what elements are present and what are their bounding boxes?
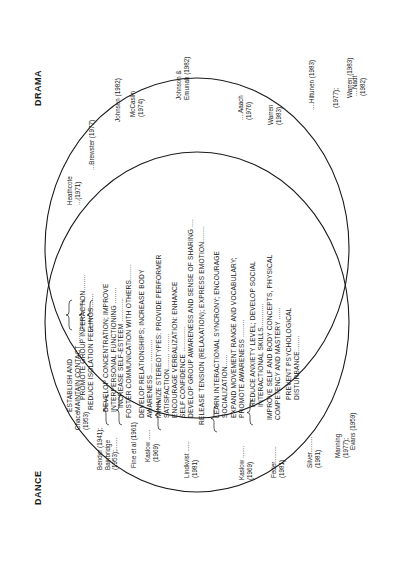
goal-item: DEVELOP CONCENTRATION; IMPROVE	[102, 283, 109, 412]
drama-reference: Warren	[267, 104, 274, 125]
drama-reference: Heathcote	[66, 176, 73, 205]
drama-reference: Emunah (1982)	[183, 57, 191, 100]
dance-reference: Feder.........	[270, 446, 277, 478]
drama-reference: Johnson &	[175, 69, 182, 100]
goal-item: INCREASE SELF-ESTEEM ............	[117, 298, 124, 408]
goal-item: DEVELOP RELATIONSHIPS; INCREASE BODY	[138, 269, 145, 418]
goal-item: PROMOTE GROUP INTERACTION........	[79, 275, 86, 400]
goal-item: RELEASE TENSION (RELAXATION); EXPRESS EM…	[198, 226, 206, 425]
dance-reference: (1981)	[314, 450, 322, 468]
drama-reference: Johnson (1982)	[114, 78, 122, 122]
dance-reference: (1981)	[191, 460, 199, 478]
drama-reference: ...(1971)	[74, 182, 82, 205]
goal-item: REDUCE ISOLATION FEELINGS.......	[87, 294, 94, 410]
dance-reference: (1969)	[246, 462, 254, 480]
goal-item: EXPAND MOVEMENT RANGE AND VOCABULARY;	[230, 257, 237, 418]
drama-reference: ....Hiltunen (1983)	[308, 60, 316, 110]
goal-item: PREVENT PSYCHOLOGICAL	[285, 307, 292, 400]
goal-item: DEVELOP GROUP AWARENESS AND SENSE OF SHA…	[187, 219, 194, 418]
dance-reference: Kaslow ......	[144, 429, 151, 462]
goal-item: INTERPERSONAL FUNCTIONING ........	[110, 287, 117, 412]
dance-references: Chace(1953)Bender (1941);Bainbridge(1953…	[74, 411, 357, 480]
dance-reference: Fine et al (1961)	[130, 422, 138, 468]
goal-item: PROMOTE AWARENESS .........	[238, 319, 245, 418]
dance-reference: (1953)	[82, 412, 90, 430]
drama-reference: (1974)	[137, 99, 145, 117]
goal-item: SOCIALIZATION......	[221, 354, 228, 418]
dance-reference: Kaslow .......	[238, 445, 245, 480]
goal-item: COMPETENCY AND MASTERY ......	[274, 308, 281, 420]
dance-reference: Evans (1959)	[349, 413, 357, 450]
goal-item: AWARENESS ..... ...........	[146, 339, 153, 418]
dance-reference: Silver.........	[306, 437, 313, 468]
venn-diagram: DRAMA DANCE ESTABLISH ANDMAINTAIN CONTAC…	[0, 0, 394, 568]
set-label-dance: DANCE	[33, 470, 43, 505]
grouping-brace	[66, 300, 72, 330]
drama-reference: ....Nadt	[351, 75, 358, 96]
goal-item: SATISFACTION........ .........	[163, 333, 170, 418]
goal-item: SELF CONFIDENCE .............	[179, 326, 186, 418]
drama-reference: (1977);	[332, 88, 340, 108]
goal-item: MINIMIZE STEREOTYPES: PROVIDE PERFORMER	[155, 255, 162, 418]
drama-reference: McCaslin	[129, 91, 136, 117]
drama-reference: ....Aaach	[237, 95, 244, 120]
goal-item: IMPROVE SELF AND BODY CONCEPTS, PHYSICAL	[266, 255, 273, 420]
goal-item: ENCOURAGE VERBALIZATION: ENHANCE	[171, 281, 178, 418]
goal-item: DISTURBANCE........	[293, 335, 300, 400]
goal-item: ESTABLISH AND	[66, 359, 73, 412]
set-label-drama: DRAMA	[33, 70, 43, 106]
dance-reference: (1981)	[278, 460, 286, 478]
goal-item: INTERACTIONAL SKILLS............	[257, 303, 264, 407]
dance-reference: Chace	[74, 411, 81, 430]
dance-reference: (1953);.......	[111, 438, 119, 470]
drama-reference: ...Brewster (1977)	[88, 120, 96, 170]
dance-reference: (1969)	[152, 444, 160, 462]
venn-svg: DRAMA DANCE ESTABLISH ANDMAINTAIN CONTAC…	[0, 0, 394, 568]
goal-item: REDUCE ANXIETY LEVEL; DEVELOP SOCIAL	[249, 261, 256, 407]
dance-reference: Lindkvist ......	[183, 441, 190, 478]
drama-reference: (1982)	[359, 78, 367, 96]
goal-item: LEARN INTERACTIONAL SYNCRONY; ENCOURAGE	[213, 250, 220, 418]
goal-item: FOSTER COMMUNICATION WITH OTHERS........	[125, 264, 132, 418]
drama-reference: (1976)	[245, 102, 253, 120]
drama-reference: (1983)	[275, 107, 283, 125]
